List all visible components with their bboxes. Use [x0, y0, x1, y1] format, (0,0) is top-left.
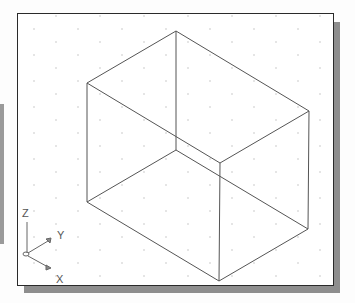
ucs-y-label: Y: [57, 229, 65, 241]
drawing-canvas[interactable]: Z Y X: [0, 0, 355, 303]
ucs-x-label: X: [56, 273, 64, 285]
ucs-z-label: Z: [22, 207, 29, 219]
